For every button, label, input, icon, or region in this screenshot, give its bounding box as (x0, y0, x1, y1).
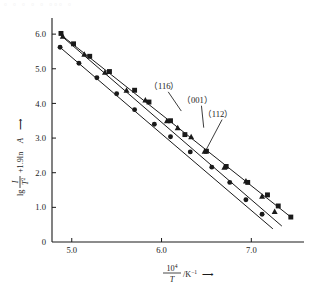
series-fit-line (59, 33, 291, 217)
series-label-001: （001） (182, 95, 213, 105)
data-point-circle (260, 212, 265, 217)
series-label-112: （112） (203, 109, 234, 119)
data-point-circle (76, 61, 81, 66)
data-point-circle (243, 197, 248, 202)
y-axis-label: lgIT2+1.9lnA⟶ (11, 118, 31, 196)
data-point-circle (132, 107, 137, 112)
series-116 (59, 31, 294, 220)
y-tick-label: 6.0 (35, 29, 46, 39)
x-label-unit: /K−1 (183, 269, 197, 279)
data-point-triangle (272, 209, 278, 214)
x-label-numerator: 104 (167, 263, 178, 273)
y-tick-label: 2.0 (35, 168, 46, 178)
data-point-circle (209, 165, 214, 170)
series-label-116: （116） (149, 81, 180, 91)
scan-artifact-text: ▫ ▫ ▫ ▫ ▫ ▫▫▫ ▫ (4, 0, 73, 9)
data-point-square (265, 192, 270, 197)
series-fit-line (61, 36, 282, 227)
series-112 (58, 45, 273, 229)
x-tick-label: 5.0 (66, 245, 77, 255)
x-label-denominator: T (170, 275, 176, 284)
y-label-fraction-denominator: T2 (20, 177, 30, 185)
x-tick-label: 7.0 (246, 245, 257, 255)
y-label-lg: lg (16, 190, 25, 196)
data-point-circle (168, 134, 173, 139)
y-label-fraction-numerator: I (11, 179, 20, 184)
data-point-square (132, 88, 137, 93)
y-tick-label: 0 (42, 237, 46, 247)
data-point-circle (94, 75, 99, 80)
y-tick-label: 1.0 (35, 202, 46, 212)
x-label-arrow: ⟶ (202, 270, 214, 279)
x-axis-label: 104T/K−1 (163, 263, 197, 284)
figure-canvas: ▫ ▫ ▫ ▫ ▫ ▫▫▫ ▫ 01.02.03.04.05.06.0 5.06… (0, 0, 311, 296)
y-tick-label: 3.0 (35, 133, 46, 143)
x-tick-label: 6.0 (156, 245, 167, 255)
data-point-square (276, 204, 281, 209)
y-label-A: A (16, 137, 25, 144)
data-series-group (58, 31, 294, 229)
y-label-plus-term: +1.9ln (16, 152, 25, 173)
data-point-circle (227, 180, 232, 185)
data-point-square (288, 215, 293, 220)
data-point-square (182, 132, 187, 137)
data-point-circle (114, 91, 119, 96)
annotation-leader-line (168, 92, 181, 111)
y-tick-label: 5.0 (35, 64, 46, 74)
annotation-leader-line (205, 120, 222, 153)
data-point-square (87, 54, 92, 59)
y-axis-ticks: 01.02.03.04.05.06.0 (35, 29, 56, 247)
data-point-circle (152, 122, 157, 127)
series-fit-line (59, 47, 273, 229)
y-tick-label: 4.0 (35, 99, 46, 109)
series-001 (60, 33, 282, 226)
data-point-square (71, 41, 76, 46)
data-point-square (107, 69, 112, 74)
data-point-circle (188, 149, 193, 154)
series-annotations: （116）（001）（112） (149, 81, 233, 153)
x-axis-ticks: 5.06.07.0 (66, 238, 256, 255)
data-point-circle (58, 45, 63, 50)
y-label-arrow: ⟶ (16, 118, 25, 130)
arrhenius-scatter-plot: 01.02.03.04.05.06.0 5.06.07.0 （116）（001）… (0, 0, 311, 296)
